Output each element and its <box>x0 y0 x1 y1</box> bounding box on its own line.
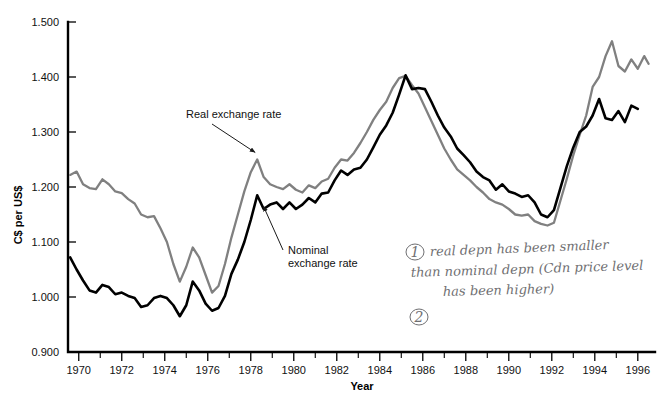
handwritten-marker-one: 1 <box>411 244 420 260</box>
chart-background <box>0 0 668 401</box>
exchange-rate-line-chart: 1.5001.4001.3001.2001.1001.0000.900 1970… <box>0 0 668 401</box>
y-tick-label: 1.200 <box>31 181 59 193</box>
y-tick-label: 1.500 <box>31 16 59 28</box>
x-tick-label: 1996 <box>626 364 650 376</box>
y-tick-label: 1.000 <box>31 291 59 303</box>
x-axis-title: Year <box>350 380 374 392</box>
x-tick-label: 1982 <box>325 364 349 376</box>
x-tick-label: 1970 <box>67 364 91 376</box>
annotation-label-real-exchange-rate: Real exchange rate <box>186 108 281 120</box>
annotation-label-nominal-line-1: Nominal <box>288 244 328 256</box>
handwritten-marker-two: 2 <box>414 309 424 325</box>
x-tick-label: 1988 <box>454 364 478 376</box>
x-tick-label: 1994 <box>583 364 607 376</box>
x-tick-label: 1992 <box>540 364 564 376</box>
chart-page: 1.5001.4001.3001.2001.1001.0000.900 1970… <box>0 0 668 401</box>
x-tick-label: 1980 <box>282 364 306 376</box>
y-axis-title: C$ per US$ <box>12 186 24 245</box>
x-tick-label: 1986 <box>411 364 435 376</box>
y-tick-label: 0.900 <box>31 346 59 358</box>
x-tick-label: 1974 <box>153 364 177 376</box>
y-tick-label: 1.400 <box>31 71 59 83</box>
y-tick-label: 1.300 <box>31 126 59 138</box>
x-tick-label: 1978 <box>239 364 263 376</box>
y-tick-label: 1.100 <box>31 236 59 248</box>
x-tick-label: 1976 <box>196 364 220 376</box>
x-tick-label: 1990 <box>497 364 521 376</box>
annotation-label-nominal-line-2: exchange rate <box>288 257 358 269</box>
x-tick-label: 1972 <box>110 364 134 376</box>
x-tick-label: 1984 <box>368 364 392 376</box>
handwritten-note-line-3: has been higher) <box>443 281 555 299</box>
